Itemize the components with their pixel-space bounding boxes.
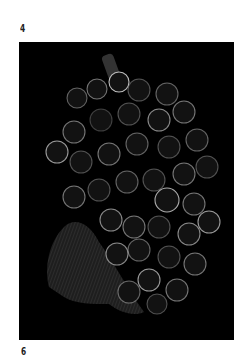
- grape-illustration-panel: [19, 42, 234, 340]
- page-label-bottom: 6: [21, 345, 26, 358]
- page-label-top: 4: [20, 22, 25, 35]
- grape-cluster-image: [19, 42, 234, 340]
